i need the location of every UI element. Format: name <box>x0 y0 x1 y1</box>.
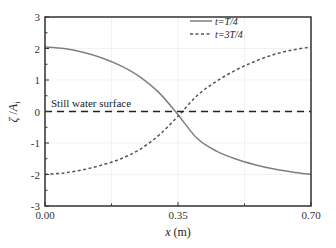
legend-label-t-quarter: t=T/4 <box>215 16 238 27</box>
line-chart: -3-2-101230.000.350.70 Still water surfa… <box>0 0 336 248</box>
legend-label-t-three-quarter: t=3T/4 <box>215 29 243 40</box>
y-axis-title: ζ /Ai <box>6 101 22 123</box>
legend: t=T/4 t=3T/4 <box>190 16 243 40</box>
y-tick-label: -1 <box>31 137 40 149</box>
annotation-still-water: Still water surface <box>51 97 131 109</box>
y-tick-label: 3 <box>35 11 41 23</box>
y-tick-label: 0 <box>35 106 41 118</box>
axis-ticks: -3-2-101230.000.350.70 <box>31 11 321 221</box>
y-tick-label: -2 <box>31 169 40 181</box>
x-tick-label: 0.35 <box>168 209 188 221</box>
y-tick-label: 2 <box>35 43 41 55</box>
x-tick-label: 0.70 <box>301 209 321 221</box>
x-tick-label: 0.00 <box>35 209 55 221</box>
y-tick-label: 1 <box>35 74 41 86</box>
x-axis-title: x (m) <box>164 225 191 239</box>
